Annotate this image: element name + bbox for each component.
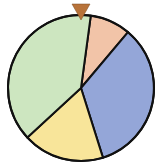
spinner-wheel[interactable] bbox=[0, 0, 160, 165]
